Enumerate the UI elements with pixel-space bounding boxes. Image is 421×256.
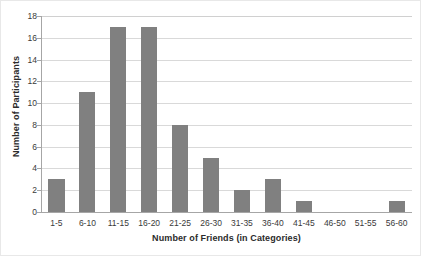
y-axis-tick-mark (37, 16, 41, 17)
x-axis-tick-label: 26-30 (196, 215, 227, 231)
bar-slot (165, 16, 196, 212)
bar (203, 158, 219, 212)
bar (296, 201, 312, 212)
x-axis-tick-label: 36-40 (257, 215, 288, 231)
bar-slot (72, 16, 103, 212)
y-axis-tick-mark (37, 103, 41, 104)
bar-slot (227, 16, 258, 212)
x-axis-title: Number of Friends (in Categories) (41, 233, 412, 243)
y-axis-tick-label: 4 (15, 163, 37, 173)
x-axis-tick-labels: 1-56-1011-1516-2021-2526-3031-3536-4041-… (41, 215, 412, 231)
y-axis-tick-mark (37, 38, 41, 39)
bar (141, 27, 157, 212)
bar (172, 125, 188, 212)
y-axis-tick-label: 14 (15, 55, 37, 65)
bar-slot (41, 16, 72, 212)
bar-slot (103, 16, 134, 212)
y-axis-tick-mark (37, 168, 41, 169)
y-axis-tick-label: 6 (15, 142, 37, 152)
plot-area (41, 16, 412, 212)
x-axis-tick-label: 46-50 (319, 215, 350, 231)
x-axis-tick-label: 31-35 (227, 215, 258, 231)
bar (48, 179, 64, 212)
x-axis-tick-label: 51-55 (350, 215, 381, 231)
bar-chart-figure: Number of Participants 024681012141618 1… (0, 0, 421, 256)
x-axis-tick-label: 6-10 (72, 215, 103, 231)
y-axis-tick-label: 0 (15, 207, 37, 217)
bar-series (41, 16, 412, 212)
y-axis-tick-label: 2 (15, 185, 37, 195)
bar-slot (288, 16, 319, 212)
bar (265, 179, 281, 212)
bar-slot (350, 16, 381, 212)
y-axis-tick-label: 12 (15, 76, 37, 86)
bar (234, 190, 250, 212)
x-axis-tick-label: 16-20 (134, 215, 165, 231)
bar-slot (134, 16, 165, 212)
y-axis-line (41, 16, 42, 213)
y-axis-tick-mark (37, 190, 41, 191)
x-axis-tick-label: 11-15 (103, 215, 134, 231)
y-axis-tick-label: 18 (15, 11, 37, 21)
bar-slot (257, 16, 288, 212)
y-axis-tick-label: 16 (15, 33, 37, 43)
bar (79, 92, 95, 212)
bar-slot (319, 16, 350, 212)
bar (110, 27, 126, 212)
x-axis-line (41, 212, 412, 213)
y-axis-tick-mark (37, 212, 41, 213)
x-axis-tick-label: 21-25 (165, 215, 196, 231)
y-axis-tick-mark (37, 60, 41, 61)
y-axis-tick-mark (37, 81, 41, 82)
x-axis-tick-label: 1-5 (41, 215, 72, 231)
bar-slot (196, 16, 227, 212)
y-axis-tick-label: 8 (15, 120, 37, 130)
y-axis-tick-mark (37, 147, 41, 148)
x-axis-tick-label: 41-45 (288, 215, 319, 231)
y-axis-tick-label: 10 (15, 98, 37, 108)
y-axis-tick-mark (37, 125, 41, 126)
bar-slot (381, 16, 412, 212)
x-axis-tick-label: 56-60 (381, 215, 412, 231)
y-axis-tick-labels: 024681012141618 (15, 16, 37, 212)
bar (389, 201, 405, 212)
